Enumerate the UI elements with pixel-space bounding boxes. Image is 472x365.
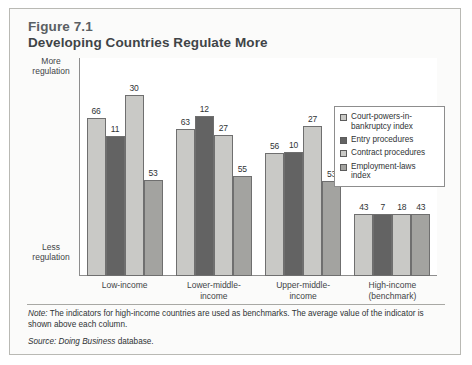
bar: 12 [195, 116, 214, 276]
y-axis-top-line2: regulation [27, 66, 75, 76]
legend-label-line: Contract procedures [351, 148, 425, 158]
legend-label: Court-powers-in-bankruptcy index [351, 112, 413, 132]
bar: 43 [354, 214, 373, 276]
legend-label-line: Court-powers-in- [351, 112, 413, 122]
bar-value-label: 27 [308, 114, 317, 124]
bar-value-label: 43 [416, 202, 425, 212]
bar-value-label: 18 [397, 202, 406, 212]
legend-swatch-icon [340, 150, 347, 157]
bar: 27 [303, 126, 322, 276]
bar-value-label: 63 [181, 117, 190, 127]
figure-note: Note: The indicators for high-income cou… [28, 309, 446, 330]
bar-value-label: 53 [148, 168, 157, 178]
bar-value-label: 43 [359, 202, 368, 212]
legend-label-line: bankruptcy index [351, 122, 413, 132]
bar: 7 [373, 214, 392, 276]
bar-value-label: 27 [219, 123, 228, 133]
y-axis-top-line1: More [27, 56, 75, 66]
bar-value-label: 12 [200, 104, 209, 114]
bar: 56 [265, 153, 284, 276]
source-publication: Doing Business [56, 337, 115, 346]
figure-card: Figure 7.1 Developing Countries Regulate… [9, 8, 461, 355]
chart-plot-area: More regulation Less regulation 66113053… [27, 54, 445, 299]
bar: 27 [214, 135, 233, 276]
legend-swatch-icon [340, 164, 347, 171]
source-text: database. [115, 337, 153, 346]
chart-legend: Court-powers-in-bankruptcy indexEntry pr… [334, 106, 445, 187]
x-axis-label: Lower-middle-income [169, 280, 258, 301]
x-axis-label-line: Lower-middle- [169, 280, 258, 291]
x-axis-labels: Low-incomeLower-middle-incomeUpper-middl… [80, 280, 437, 301]
legend-label-line: Entry procedures [351, 135, 413, 145]
x-axis-label: Low-income [80, 280, 169, 301]
bar: 10 [284, 152, 303, 276]
bar: 30 [125, 95, 144, 276]
x-axis-label-line: Upper-middle- [259, 280, 348, 291]
page-title: Developing Countries Regulate More [28, 35, 268, 51]
y-axis-top-caption: More regulation [27, 56, 75, 76]
bar-value-label: 30 [129, 83, 138, 93]
legend-label: Contract procedures [351, 148, 425, 158]
bar: 66 [87, 118, 106, 276]
bar-value-label: 56 [270, 141, 279, 151]
x-axis-label: High-income(benchmark) [348, 280, 437, 301]
note-prefix: Note: [28, 309, 48, 318]
bar: 53 [322, 181, 341, 276]
bar: 55 [233, 176, 252, 276]
y-axis-bottom-line2: regulation [27, 252, 75, 262]
legend-item: Employment-laws index [340, 162, 437, 182]
bar-value-label: 11 [111, 124, 120, 134]
legend-swatch-icon [340, 137, 347, 144]
bar: 53 [144, 180, 163, 276]
y-axis-bottom-caption: Less regulation [27, 242, 75, 262]
x-axis-label-line: income [169, 291, 258, 302]
title-block: Figure 7.1 Developing Countries Regulate… [28, 19, 268, 51]
bar: 43 [411, 214, 430, 276]
figure-source: Source: Doing Business database. [28, 337, 446, 348]
legend-label: Entry procedures [351, 135, 413, 145]
figure-number: Figure 7.1 [28, 19, 268, 34]
bar-value-label: 10 [289, 140, 298, 150]
bar: 11 [106, 136, 125, 276]
legend-item: Court-powers-in-bankruptcy index [340, 112, 437, 132]
y-axis-bottom-line1: Less [27, 242, 75, 252]
legend-item: Entry procedures [340, 135, 437, 145]
x-axis-label-line: (benchmark) [348, 291, 437, 302]
bar-value-label: 55 [238, 164, 247, 174]
legend-swatch-icon [340, 114, 347, 121]
x-axis-label-line: income [259, 291, 348, 302]
bar-group: 66113053 [80, 58, 169, 276]
legend-label: Employment-laws index [351, 162, 437, 182]
footer-divider [27, 304, 445, 305]
x-axis-label-line: Low-income [80, 280, 169, 291]
legend-label-line: Employment-laws index [351, 162, 437, 182]
bar-group: 63122755 [169, 58, 258, 276]
x-axis-label: Upper-middle-income [259, 280, 348, 301]
bar-value-label: 66 [91, 106, 100, 116]
bar-value-label: 7 [381, 202, 386, 212]
x-axis-label-line: High-income [348, 280, 437, 291]
source-prefix: Source: [28, 337, 56, 346]
bar: 18 [392, 214, 411, 276]
legend-item: Contract procedures [340, 148, 437, 158]
bar: 63 [176, 129, 195, 276]
note-text: The indicators for high-income countries… [28, 309, 424, 329]
